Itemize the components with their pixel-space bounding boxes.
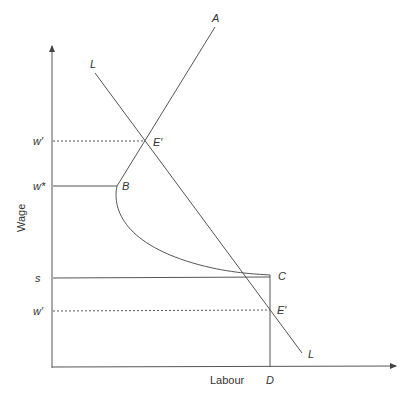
- supply-curve-B-to-C: [116, 186, 270, 275]
- label-B: B: [122, 180, 129, 192]
- tick-w-prime-lower: w′: [33, 305, 44, 317]
- label-L-bottom: L: [308, 348, 314, 360]
- tick-w-prime-upper: w′: [33, 135, 44, 147]
- x-axis-title: Labour: [210, 374, 245, 386]
- label-L-top: L: [90, 58, 96, 70]
- label-C: C: [278, 270, 286, 282]
- labour-wage-diagram: L A E′ B C E′ L w′ w* s w′ D Labour Wage: [0, 0, 412, 399]
- label-A: A: [211, 12, 219, 24]
- w-prime-lower-dashed-line: [53, 310, 270, 311]
- y-axis-title: Wage: [15, 204, 27, 232]
- tick-w-star: w*: [33, 180, 46, 192]
- tick-s: s: [35, 272, 41, 284]
- supply-line-A: [117, 27, 215, 186]
- x-axis: [52, 366, 396, 367]
- label-E-prime-lower: E′: [277, 304, 287, 316]
- label-E-prime-upper: E′: [153, 136, 163, 148]
- tick-D: D: [266, 374, 274, 386]
- s-line: [53, 277, 270, 278]
